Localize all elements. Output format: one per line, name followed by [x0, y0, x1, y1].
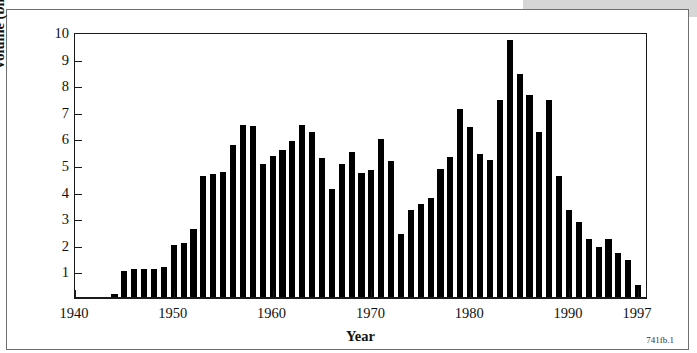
bar — [497, 100, 503, 298]
y-tick-mark — [75, 167, 82, 168]
bar — [536, 132, 542, 298]
y-tick-mark — [75, 273, 82, 274]
bar — [477, 154, 483, 298]
x-tick-mark — [273, 290, 274, 298]
bar — [200, 176, 206, 298]
y-tick-mark — [75, 87, 82, 88]
bar — [279, 150, 285, 298]
bar — [190, 229, 196, 298]
y-tick-label: 5 — [43, 159, 69, 174]
x-axis-baseline — [75, 297, 646, 298]
bar — [368, 170, 374, 298]
bar — [447, 157, 453, 298]
bar — [339, 164, 345, 298]
bar — [240, 125, 246, 298]
bar — [319, 158, 325, 298]
bar — [625, 260, 631, 298]
plot-area — [74, 33, 647, 299]
bar — [141, 269, 147, 298]
bar — [605, 239, 611, 298]
bar — [398, 234, 404, 298]
bar — [576, 222, 582, 298]
y-tick-mark — [75, 61, 82, 62]
y-tick-label: 7 — [43, 106, 69, 121]
x-tick-label: 1940 — [60, 305, 89, 322]
y-tick-label: 1 — [43, 265, 69, 280]
y-tick-label: 4 — [43, 185, 69, 200]
y-tick-mark — [75, 220, 82, 221]
bar — [546, 100, 552, 298]
bar — [586, 239, 592, 298]
bar — [260, 164, 266, 298]
bar — [210, 174, 216, 298]
bar — [250, 126, 256, 298]
x-tick-mark — [569, 290, 570, 298]
bar — [467, 127, 473, 298]
bar — [388, 161, 394, 298]
bar — [151, 269, 157, 298]
figure-id-caption: 741fb.1 — [646, 335, 674, 345]
x-tick-mark — [470, 290, 471, 298]
x-tick-mark — [75, 290, 76, 298]
y-tick-mark — [75, 140, 82, 141]
x-axis-label: Year — [74, 328, 647, 345]
x-tick-mark — [371, 290, 372, 298]
bar — [457, 109, 463, 298]
bar — [428, 198, 434, 298]
y-tick-label: 8 — [43, 79, 69, 94]
bar — [309, 132, 315, 298]
y-axis-label: Volume (billions of gallons) — [0, 0, 8, 70]
bar — [349, 152, 355, 298]
y-tick-label: 6 — [43, 132, 69, 147]
bar — [161, 267, 167, 298]
bar — [487, 160, 493, 298]
y-axis-tick-labels: 12345678910 — [35, 33, 69, 299]
bar — [566, 210, 572, 298]
y-tick-mark — [75, 114, 82, 115]
bar — [418, 204, 424, 298]
x-tick-mark — [638, 290, 639, 298]
bar — [230, 145, 236, 298]
x-tick-label: 1950 — [158, 305, 187, 322]
x-tick-label: 1960 — [257, 305, 286, 322]
bar — [299, 125, 305, 298]
y-tick-label: 10 — [43, 26, 69, 41]
bar — [556, 176, 562, 298]
y-tick-mark — [75, 194, 82, 195]
x-tick-label: 1997 — [623, 305, 652, 322]
bar — [329, 189, 335, 298]
x-tick-mark — [174, 290, 175, 298]
figure-container: Volume (billions of gallons) 12345678910… — [6, 9, 689, 350]
bar — [220, 172, 226, 298]
bar — [526, 95, 532, 298]
bar — [408, 210, 414, 298]
bar — [517, 74, 523, 298]
bar — [289, 141, 295, 298]
y-tick-label: 2 — [43, 239, 69, 254]
y-tick-label: 3 — [43, 212, 69, 227]
bar — [131, 269, 137, 298]
bar — [437, 169, 443, 298]
x-tick-label: 1970 — [356, 305, 385, 322]
x-tick-label: 1980 — [455, 305, 484, 322]
bar — [181, 243, 187, 298]
bars-layer — [75, 34, 646, 298]
bar — [507, 40, 513, 298]
bar — [615, 253, 621, 298]
bar — [596, 247, 602, 298]
x-tick-label: 1990 — [553, 305, 582, 322]
bar — [378, 139, 384, 298]
bar — [270, 156, 276, 298]
y-tick-mark — [75, 247, 82, 248]
bar — [121, 271, 127, 298]
bar — [358, 173, 364, 298]
y-tick-label: 9 — [43, 52, 69, 67]
